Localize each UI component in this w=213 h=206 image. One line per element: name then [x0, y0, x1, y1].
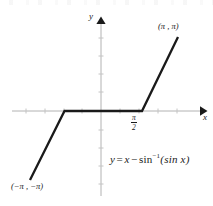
plot-canvas	[0, 0, 213, 206]
y-axis-label: y	[89, 11, 93, 21]
equation-minus: −	[130, 153, 139, 165]
point-label-negpi-negpi: (−π , −π)	[11, 181, 43, 191]
equation-term-x: x	[125, 153, 130, 165]
x-tick-label-half-pi: π 2	[131, 114, 137, 132]
equation-equals: =	[115, 153, 124, 165]
x-axis-label: x	[203, 112, 207, 122]
fraction-numerator: π	[131, 114, 137, 122]
y-axis-arrowhead	[96, 17, 105, 25]
fraction-denominator: 2	[131, 124, 137, 132]
equation-function-name: sin	[139, 153, 152, 165]
function-graph-figure: y x (π , π) (−π , −π) π 2 y=x−sin−1(sin …	[0, 0, 213, 206]
equation-label: y=x−sin−1(sin x)	[110, 152, 190, 165]
fraction-half-pi: π 2	[131, 114, 137, 132]
equation-argument: (sin x)	[160, 153, 189, 165]
point-label-pi-pi: (π , π)	[158, 21, 179, 31]
